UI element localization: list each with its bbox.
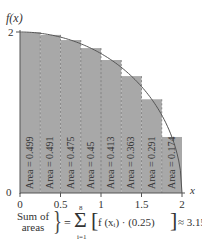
bar-area-label: Area = 0.363 — [125, 136, 136, 189]
brace: } — [53, 208, 62, 235]
sum-result: ≈ 3.156 — [178, 216, 202, 228]
bar-area-label: Area = 0.291 — [146, 136, 157, 189]
x-tick-label: 1.5 — [135, 198, 149, 208]
x-tick-label: 2 — [179, 198, 185, 208]
summand-expression: f (xᵢ) · (0.25) — [98, 216, 155, 228]
sigma-lower-limit: i=1 — [77, 233, 86, 241]
y-tick-label-0: 0 — [6, 186, 12, 198]
bar-area-label: Area = 0.475 — [65, 136, 76, 189]
y-axis-label: f(x) — [6, 11, 23, 25]
bar-area-label: Area = 0.491 — [44, 136, 55, 189]
bar-area-label: Area = 0.499 — [24, 136, 35, 189]
x-tick-label: 1 — [98, 198, 104, 208]
x-ticks: 00.511.52 — [17, 193, 185, 208]
bracket-close: ] — [170, 208, 177, 232]
x-axis-label: x — [189, 184, 195, 196]
bar-area-label: Area = 0.174 — [166, 136, 177, 189]
sum-label-line2: areas — [14, 222, 52, 233]
sigma-icon: Σ — [74, 208, 87, 232]
equals-sign: = — [64, 216, 71, 231]
y-tick-label-2: 2 — [8, 26, 14, 38]
sum-of-areas-label: Sum of areas — [14, 211, 52, 233]
bars-group: Area = 0.499Area = 0.491Area = 0.475Area… — [20, 32, 182, 193]
x-tick-label: 0 — [17, 198, 23, 208]
bar-area-label: Area = 0.45 — [85, 141, 96, 189]
bar-area-label: Area = 0.413 — [105, 136, 116, 189]
sum-formula: Sum of areas } = 8 Σ i=1 [ f (xᵢ) · (0.2… — [0, 208, 202, 248]
riemann-sum-chart: Area = 0.499Area = 0.491Area = 0.475Area… — [0, 0, 202, 208]
